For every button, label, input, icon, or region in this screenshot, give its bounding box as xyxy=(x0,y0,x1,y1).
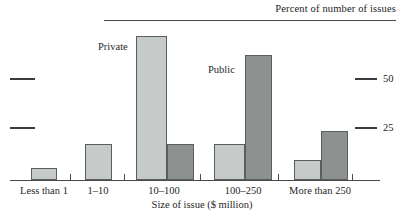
bar-private-100-250 xyxy=(214,144,245,180)
bar-private-10-100 xyxy=(136,36,167,180)
x-axis-title: Size of issue ($ million) xyxy=(0,198,404,211)
bar-public-100-250 xyxy=(245,55,272,180)
right-tick-label-25: 25 xyxy=(383,122,394,133)
right-tick-label-50: 50 xyxy=(383,73,394,84)
bar-private-more-than-250 xyxy=(294,160,321,180)
left-tick-25 xyxy=(10,127,35,129)
plot-area: 50 25 Private Public Less than 1 1–10 10… xyxy=(0,0,404,215)
bar-private-less-than-1 xyxy=(31,168,57,180)
series-label-private: Private xyxy=(98,41,128,53)
bar-public-10-100 xyxy=(167,144,194,180)
category-label-more-than-250: More than 250 xyxy=(289,184,351,197)
right-tick-50 xyxy=(355,78,377,80)
category-label-less-than-1: Less than 1 xyxy=(20,184,68,197)
x-axis-baseline xyxy=(10,180,380,181)
category-label-1-10: 1–10 xyxy=(88,184,109,197)
bar-public-more-than-250 xyxy=(321,131,348,180)
left-tick-50 xyxy=(10,78,35,80)
chart-figure: Percent of number of issues 50 25 xyxy=(0,0,404,215)
bar-private-1-10 xyxy=(85,144,112,180)
category-label-100-250: 100–250 xyxy=(225,184,262,197)
category-label-10-100: 10–100 xyxy=(148,184,180,197)
series-label-public: Public xyxy=(208,64,235,76)
right-tick-25 xyxy=(355,127,377,129)
